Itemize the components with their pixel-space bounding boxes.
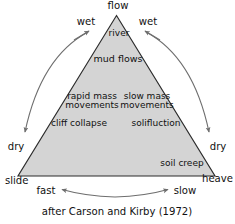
axis-label-fast: fast (37, 186, 56, 196)
axis-label-dry-left: dry (8, 142, 25, 152)
rapid-mass-movements-line-2: movements (65, 101, 118, 110)
left-dry-to-wet-arrow (74, 31, 89, 40)
axis-label-wet-right: wet (139, 17, 157, 27)
vertex-label-slide: slide (5, 176, 29, 186)
process-label-solifluction: solifluction (132, 119, 181, 128)
process-label-river: river (109, 29, 130, 38)
axis-label-dry-right: dry (210, 142, 227, 152)
fast-slow-arrow-right-head (115, 190, 168, 198)
process-label-soil-creep: soil creep (160, 159, 203, 168)
fast-slow-arrow-left-head (62, 190, 115, 198)
apex-label-flow: flow (108, 1, 129, 11)
axis-label-wet-left: wet (77, 17, 95, 27)
process-label-cliff-collapse: cliff collapse (51, 119, 107, 128)
process-label-slow-mass-movements: slow mass movements (120, 92, 173, 111)
slow-mass-movements-line-2: movements (120, 101, 173, 110)
process-label-rapid-mass-movements: rapid mass movements (65, 92, 118, 111)
figure-caption: after Carson and Kirby (1972) (42, 206, 192, 217)
vertex-label-heave: heave (202, 174, 233, 184)
axis-label-slow: slow (174, 186, 197, 196)
process-label-mud-flows: mud flows (94, 54, 143, 64)
diagram-root: flow slide heave wet wet dry dry fast sl… (0, 0, 235, 224)
right-dry-to-wet-arrow (145, 31, 160, 40)
